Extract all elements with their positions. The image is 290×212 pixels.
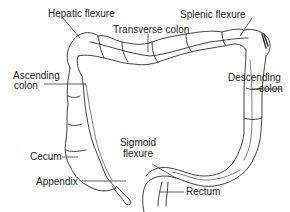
label-sigmoid-flexure-line2: flexure bbox=[118, 148, 158, 159]
label-appendix: Appendix bbox=[36, 176, 78, 187]
label-rectum: Rectum bbox=[186, 186, 220, 197]
label-descending-colon-line1: Descending bbox=[228, 72, 281, 83]
hepatic-flexure-leader bbox=[62, 17, 80, 38]
splenic-flexure-leader bbox=[240, 18, 252, 36]
label-descending-colon-line2: colon bbox=[259, 83, 283, 94]
label-cecum: Cecum bbox=[30, 151, 62, 162]
label-sigmoid-flexure-line1: Sigmoid bbox=[118, 137, 158, 148]
label-hepatic-flexure: Hepatic flexure bbox=[48, 8, 115, 19]
colon-diagram: Hepatic flexure Splenic flexure Transver… bbox=[0, 0, 290, 212]
label-splenic-flexure: Splenic flexure bbox=[180, 9, 246, 20]
rectum-shape bbox=[158, 182, 168, 206]
label-ascending-colon-line2: colon bbox=[14, 80, 38, 91]
label-transverse-colon: Transverse colon bbox=[113, 24, 189, 35]
ascending-colon-shape bbox=[65, 68, 92, 188]
